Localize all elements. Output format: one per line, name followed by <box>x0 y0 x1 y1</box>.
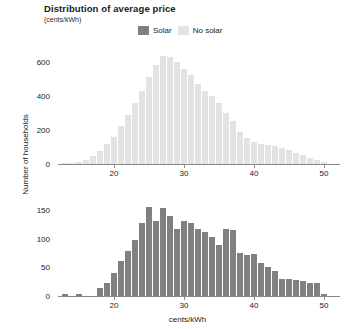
x-tick-mark <box>324 297 325 300</box>
x-tick-label: 40 <box>250 301 259 310</box>
histogram-bar <box>293 280 300 296</box>
chart-title: Distribution of average price <box>44 3 176 14</box>
histogram-bar <box>230 230 237 296</box>
histogram-bar <box>181 69 188 164</box>
x-tick-mark <box>324 165 325 168</box>
y-tick-label: 400 <box>37 91 50 100</box>
legend-swatch-no-solar <box>178 26 189 35</box>
histogram-bar <box>125 115 132 164</box>
histogram-bar <box>111 137 118 164</box>
histogram-bar <box>286 279 293 296</box>
histogram-bar <box>272 271 279 296</box>
histogram-bar <box>118 126 125 164</box>
x-tick-label: 30 <box>180 169 189 178</box>
histogram-bar <box>160 56 167 164</box>
x-axis-line-solar <box>58 296 340 297</box>
x-tick-label: 50 <box>320 301 329 310</box>
y-tick-label: 0 <box>46 160 50 169</box>
histogram-bar <box>237 132 244 164</box>
y-tick-label: 600 <box>37 57 50 66</box>
histogram-bar <box>223 113 230 164</box>
histogram-bar <box>139 91 146 164</box>
histogram-bar <box>237 253 244 296</box>
histogram-bar <box>244 138 251 164</box>
x-tick-mark <box>254 297 255 300</box>
histogram-bar <box>195 84 202 164</box>
histogram-bar <box>300 155 307 164</box>
histogram-bar <box>265 145 272 164</box>
x-axis-line-no-solar <box>58 164 340 165</box>
legend-label-no-solar: No solar <box>193 26 223 35</box>
x-tick-mark <box>184 297 185 300</box>
histogram-bar <box>279 148 286 164</box>
legend-item-solar: Solar <box>138 26 172 35</box>
histogram-bar <box>265 267 272 296</box>
panel-solar: 050100150 20304050 <box>0 196 345 302</box>
histogram-bar <box>286 150 293 164</box>
histogram-bar <box>132 240 139 296</box>
histogram-bar <box>104 144 111 164</box>
histogram-bar <box>272 146 279 164</box>
histogram-bar <box>202 232 209 296</box>
histogram-bar <box>223 229 230 296</box>
y-axis-ticks-solar: 050100150 <box>0 196 50 296</box>
chart-subtitle: (cents/kWh) <box>44 16 81 23</box>
histogram-bar <box>258 144 265 164</box>
histogram-figure: Distribution of average price (cents/kWh… <box>0 0 345 329</box>
x-axis-label: cents/kWh <box>169 315 206 324</box>
histogram-bar <box>307 283 314 296</box>
histogram-bar <box>97 288 104 296</box>
histogram-bar <box>279 279 286 296</box>
bars-no-solar <box>58 48 338 164</box>
histogram-bar <box>111 273 118 296</box>
histogram-bar <box>146 77 153 164</box>
histogram-bar <box>300 281 307 296</box>
y-tick-label: 0 <box>46 292 50 301</box>
legend-swatch-solar <box>138 26 149 35</box>
plot-area-solar <box>58 196 338 296</box>
histogram-bar <box>167 57 174 164</box>
histogram-bar <box>188 75 195 164</box>
histogram-bar <box>153 65 160 164</box>
histogram-bar <box>202 91 209 164</box>
histogram-bar <box>153 221 160 296</box>
y-tick-label: 100 <box>37 234 50 243</box>
histogram-bar <box>181 221 188 296</box>
histogram-bar <box>188 223 195 296</box>
y-axis-ticks-no-solar: 0200400600 <box>0 48 50 164</box>
histogram-bar <box>314 283 321 296</box>
x-tick-label: 50 <box>320 169 329 178</box>
y-tick-label: 50 <box>41 263 50 272</box>
y-tick-label: 200 <box>37 125 50 134</box>
histogram-bar <box>146 207 153 296</box>
plot-area-no-solar <box>58 48 338 164</box>
histogram-bar <box>174 229 181 296</box>
histogram-bar <box>216 103 223 164</box>
chart-legend: Solar No solar <box>138 26 222 35</box>
histogram-bar <box>209 237 216 296</box>
x-tick-label: 20 <box>110 169 119 178</box>
legend-item-no-solar: No solar <box>178 26 223 35</box>
histogram-bar <box>160 208 167 296</box>
histogram-bar <box>132 103 139 164</box>
histogram-bar <box>125 251 132 296</box>
histogram-bar <box>230 121 237 164</box>
legend-label-solar: Solar <box>153 26 172 35</box>
y-tick-label: 150 <box>37 206 50 215</box>
histogram-bar <box>167 216 174 296</box>
histogram-bar <box>118 261 125 296</box>
histogram-bar <box>90 156 97 164</box>
x-tick-mark <box>114 297 115 300</box>
x-axis-label-wrap: cents/kWh <box>0 315 345 324</box>
histogram-bar <box>195 229 202 296</box>
histogram-bar <box>139 223 146 296</box>
histogram-bar <box>293 153 300 164</box>
x-tick-label: 20 <box>110 301 119 310</box>
histogram-bar <box>251 142 258 164</box>
x-tick-mark <box>184 165 185 168</box>
histogram-bar <box>251 254 258 296</box>
histogram-bar <box>258 263 265 296</box>
histogram-bar <box>244 255 251 296</box>
bars-solar <box>58 196 338 296</box>
x-tick-label: 30 <box>180 301 189 310</box>
